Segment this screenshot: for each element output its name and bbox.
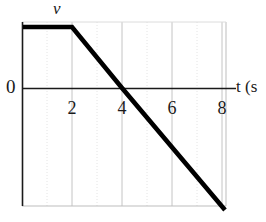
x-tick-label-8: 8 bbox=[212, 99, 232, 117]
velocity-curve bbox=[23, 27, 225, 210]
x-tick-label-4: 4 bbox=[112, 99, 132, 117]
x-axis-label: t (s bbox=[236, 78, 257, 95]
origin-label: 0 bbox=[6, 77, 16, 96]
velocity-time-graph-figure: v 0 t (s 2 4 6 8 bbox=[0, 0, 266, 222]
x-tick-label-2: 2 bbox=[62, 99, 82, 117]
y-axis-label: v bbox=[53, 0, 61, 17]
x-tick-label-6: 6 bbox=[162, 99, 182, 117]
